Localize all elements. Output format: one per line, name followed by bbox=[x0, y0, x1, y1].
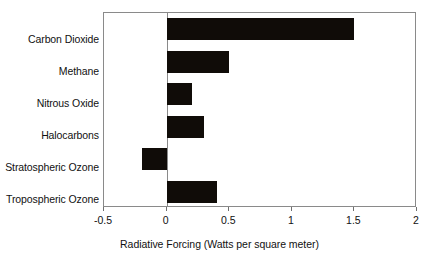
category-label-nitrous-oxide: Nitrous Oxide bbox=[0, 98, 99, 109]
bar-halocarbons bbox=[167, 116, 205, 138]
x-tick-mark bbox=[228, 207, 229, 211]
x-axis-title: Radiative Forcing (Watts per square mete… bbox=[0, 238, 439, 250]
x-tick-mark bbox=[416, 207, 417, 211]
plot-inner bbox=[104, 13, 415, 206]
category-label-stratospheric-ozone: Stratospheric Ozone bbox=[0, 162, 99, 173]
zero-reference-line bbox=[167, 13, 168, 206]
radiative-forcing-bar-chart: Carbon Dioxide Methane Nitrous Oxide Hal… bbox=[0, 0, 439, 263]
x-tick-mark bbox=[103, 207, 104, 211]
bar-carbon-dioxide bbox=[167, 18, 355, 40]
bar-methane bbox=[167, 51, 230, 73]
category-label-methane: Methane bbox=[0, 66, 99, 77]
x-tick-mark bbox=[291, 207, 292, 211]
x-tick-label: 2 bbox=[413, 214, 419, 226]
category-label-halocarbons: Halocarbons bbox=[0, 130, 99, 141]
x-tick-label: -0.5 bbox=[94, 214, 112, 226]
x-tick-label: 0.5 bbox=[221, 214, 236, 226]
category-label-tropospheric-ozone: Tropospheric Ozone bbox=[0, 194, 99, 205]
bar-nitrous-oxide bbox=[167, 83, 192, 105]
x-tick-label: 1.5 bbox=[346, 214, 361, 226]
x-tick-label: 1 bbox=[288, 214, 294, 226]
category-axis-labels: Carbon Dioxide Methane Nitrous Oxide Hal… bbox=[0, 12, 99, 207]
bar-stratospheric-ozone bbox=[142, 148, 167, 170]
bar-tropospheric-ozone bbox=[167, 181, 217, 203]
plot-area bbox=[103, 12, 416, 207]
x-tick-label: 0 bbox=[163, 214, 169, 226]
x-tick-mark bbox=[353, 207, 354, 211]
x-tick-mark bbox=[166, 207, 167, 211]
category-label-carbon-dioxide: Carbon Dioxide bbox=[0, 34, 99, 45]
